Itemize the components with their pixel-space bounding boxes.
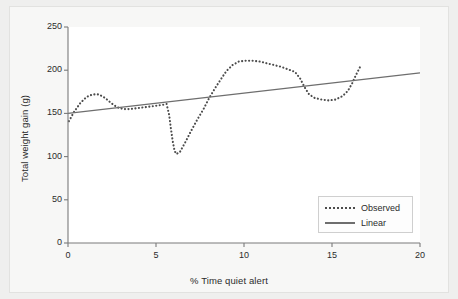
- y-tick-label: 50: [22, 194, 62, 204]
- x-tick-label: 20: [400, 250, 440, 260]
- x-axis-label: % Time quiet alert: [0, 275, 458, 286]
- x-tick-label: 15: [312, 250, 352, 260]
- legend-item-observed: Observed: [325, 201, 400, 215]
- y-tick-label: 150: [22, 107, 62, 117]
- y-tick-label: 250: [22, 21, 62, 31]
- x-tick-label: 5: [136, 250, 176, 260]
- legend-item-linear: Linear: [325, 216, 386, 230]
- legend-label-observed: Observed: [361, 203, 400, 213]
- y-tick-label: 100: [22, 151, 62, 161]
- y-tick-label: 0: [22, 237, 62, 247]
- legend-label-linear: Linear: [361, 218, 386, 228]
- legend-swatch-dotted-icon: [325, 207, 355, 209]
- x-tick-label: 10: [224, 250, 264, 260]
- y-tick-label: 200: [22, 64, 62, 74]
- chart-legend: Observed Linear: [318, 196, 413, 233]
- x-tick-label: 0: [48, 250, 88, 260]
- figure-container: % Time quiet alert Total weight gain (g)…: [0, 0, 458, 299]
- legend-swatch-solid-icon: [325, 222, 355, 224]
